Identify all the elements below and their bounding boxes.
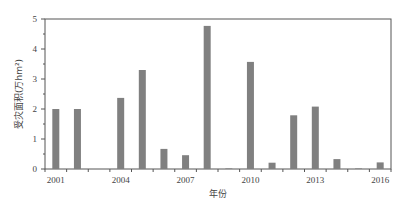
x-axis-title: 年份: [209, 188, 227, 199]
bar-2014: [333, 159, 340, 169]
bar-2010: [247, 62, 254, 169]
bar-2001: [52, 109, 59, 169]
bars: [52, 26, 383, 169]
y-axis: 012345: [33, 14, 46, 174]
y-tick-label: 1: [33, 134, 38, 144]
bar-2008: [204, 26, 211, 169]
x-tick-label: 2007: [177, 175, 196, 185]
plot-frame: [45, 19, 391, 169]
bar-2007: [182, 155, 189, 169]
bar-2016: [377, 162, 384, 169]
x-tick-label: 2001: [47, 175, 65, 185]
bar-2011: [269, 163, 276, 169]
x-tick-label: 2004: [112, 175, 131, 185]
bar-2013: [312, 107, 319, 169]
x-tick-label: 2010: [241, 175, 260, 185]
bar-2004: [117, 98, 124, 169]
bar-2015: [355, 168, 362, 169]
bar-chart: 012345 200120042007201020132016 受灾面积(万hm…: [0, 0, 407, 209]
y-tick-label: 0: [33, 164, 38, 174]
x-axis: 200120042007201020132016: [45, 169, 391, 185]
y-tick-label: 3: [33, 74, 38, 84]
y-axis-title: 受灾面积(万hm²): [13, 59, 24, 129]
bar-2005: [139, 70, 146, 169]
bar-2012: [290, 115, 297, 169]
bar-2006: [160, 149, 167, 169]
y-tick-label: 5: [33, 14, 38, 24]
y-tick-label: 4: [33, 44, 38, 54]
bar-2009: [225, 168, 232, 169]
y-tick-label: 2: [33, 104, 38, 114]
plot-border: [45, 19, 391, 169]
bar-2002: [74, 109, 81, 169]
x-tick-label: 2013: [306, 175, 325, 185]
x-tick-label: 2016: [371, 175, 390, 185]
